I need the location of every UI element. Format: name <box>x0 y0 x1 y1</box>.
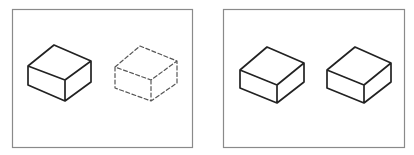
figure-canvas <box>0 0 414 155</box>
panel-left <box>13 10 193 148</box>
solid-isometric-box <box>28 45 91 101</box>
caption-right-cropped: · · · · · · · · · · · · · · · · · · <box>215 149 410 155</box>
panel-right <box>224 10 405 148</box>
panel-frame <box>13 10 193 148</box>
caption-left-cropped: · · · · · · · · · · · · · · · · · · · <box>4 149 204 155</box>
isometric-box-figure: · · · · · · · · · · · · · · · · · · · · … <box>0 0 414 155</box>
solid-isometric-box <box>240 47 304 103</box>
dashed-isometric-box <box>115 46 177 101</box>
solid-isometric-box <box>327 47 391 103</box>
panel-frame <box>224 10 405 148</box>
